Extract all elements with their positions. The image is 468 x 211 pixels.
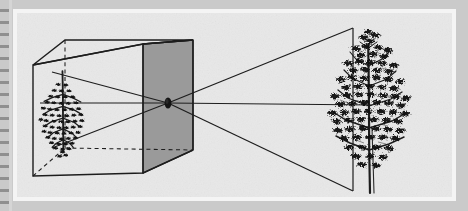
pinhole-camera-diagram: [0, 0, 468, 211]
pinhole-highlight: [166, 99, 169, 104]
figure-root: [0, 0, 468, 211]
